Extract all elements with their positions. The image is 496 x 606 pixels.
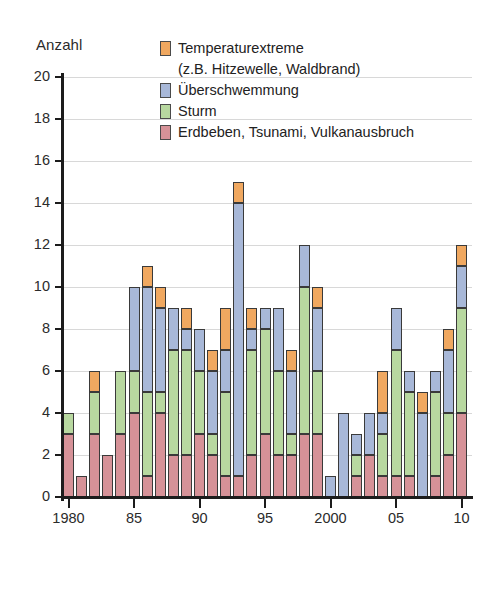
y-tick-18	[55, 118, 64, 120]
bar-segment	[273, 371, 284, 455]
bar-segment	[377, 434, 388, 476]
bar-1989	[181, 308, 192, 497]
x-tick-label-2005: 05	[388, 510, 404, 526]
bar-segment	[273, 455, 284, 497]
bar-segment	[220, 308, 231, 350]
bar-segment	[377, 413, 388, 434]
x-tick-label-1990: 90	[191, 510, 207, 526]
bar-segment	[129, 413, 140, 497]
x-tick-1985	[133, 499, 135, 508]
bar-segment	[299, 287, 310, 434]
bar-2000	[325, 476, 336, 497]
x-tick-1995	[264, 499, 266, 508]
bar-segment	[417, 392, 428, 413]
bar-1997	[286, 350, 297, 497]
bar-segment	[155, 413, 166, 497]
bar-segment	[430, 476, 441, 497]
bar-segment	[404, 371, 415, 392]
bar-segment	[286, 350, 297, 371]
bar-1986	[142, 266, 153, 497]
bar-segment	[391, 476, 402, 497]
figure-caption: M 5 Große Naturkatastrophen	[0, 548, 496, 606]
bar-1983	[102, 455, 113, 497]
bar-1987	[155, 287, 166, 497]
bar-segment	[260, 308, 271, 329]
bar-segment	[155, 287, 166, 308]
bar-segment	[207, 434, 218, 455]
bar-segment	[246, 455, 257, 497]
legend-item-temperaturextreme: Temperaturextreme	[160, 38, 490, 59]
bar-segment	[417, 413, 428, 497]
chart-page: Anzahl Temperaturextreme (z.B. Hitzewell…	[0, 0, 496, 606]
y-tick-12	[55, 244, 64, 246]
bar-segment	[351, 434, 362, 455]
bar-segment	[207, 350, 218, 371]
y-tick-label-14: 14	[16, 194, 50, 210]
bar-segment	[246, 350, 257, 455]
x-axis-line	[61, 496, 473, 499]
x-tick-label-1995: 95	[257, 510, 273, 526]
bar-segment	[260, 329, 271, 434]
bar-1982	[89, 371, 100, 497]
bar-segment	[194, 329, 205, 371]
y-tick-0	[55, 496, 64, 498]
y-axis-title: Anzahl	[36, 36, 82, 53]
bar-2008	[430, 371, 441, 497]
bar-segment	[102, 455, 113, 497]
bar-segment	[233, 182, 244, 203]
legend-swatch-temperaturextreme	[160, 41, 171, 56]
bar-2001	[338, 413, 349, 497]
y-tick-label-16: 16	[16, 152, 50, 168]
bar-1988	[168, 308, 179, 497]
bar-segment	[430, 371, 441, 392]
bar-1996	[273, 308, 284, 497]
bar-segment	[89, 392, 100, 434]
gridline-20	[63, 77, 472, 78]
bar-segment	[89, 371, 100, 392]
bar-segment	[220, 392, 231, 476]
bar-segment	[325, 476, 336, 497]
bar-segment	[233, 203, 244, 476]
x-tick-label-1985: 85	[126, 510, 142, 526]
bar-segment	[312, 287, 323, 308]
bar-segment	[456, 413, 467, 497]
x-tick-label-2000: 2000	[314, 510, 346, 526]
y-tick-2	[55, 454, 64, 456]
bar-segment	[456, 308, 467, 413]
bar-1980	[63, 413, 74, 497]
bar-segment	[194, 434, 205, 497]
bar-segment	[273, 308, 284, 371]
bar-2005	[391, 308, 402, 497]
gridline-14	[63, 203, 472, 204]
bar-segment	[63, 413, 74, 434]
bar-segment	[142, 476, 153, 497]
bar-2010	[456, 245, 467, 497]
bar-segment	[76, 476, 87, 497]
bar-segment	[391, 350, 402, 476]
bar-1999	[312, 287, 323, 497]
x-tick-label-2010: 10	[453, 510, 469, 526]
bar-segment	[430, 392, 441, 476]
bar-segment	[155, 308, 166, 392]
legend-swatch-placeholder	[160, 62, 171, 77]
bar-segment	[246, 308, 257, 329]
bar-2007	[417, 392, 428, 497]
bar-segment	[181, 308, 192, 329]
bar-1998	[299, 245, 310, 497]
bar-segment	[233, 476, 244, 497]
bar-segment	[312, 371, 323, 434]
y-tick-8	[55, 328, 64, 330]
bar-segment	[456, 245, 467, 266]
bar-segment	[338, 413, 349, 497]
bar-segment	[207, 455, 218, 497]
y-tick-4	[55, 412, 64, 414]
bar-segment	[391, 308, 402, 350]
y-tick-label-8: 8	[16, 320, 50, 336]
bar-segment	[129, 371, 140, 413]
bar-segment	[443, 413, 454, 455]
bar-2006	[404, 371, 415, 497]
y-tick-label-20: 20	[16, 68, 50, 84]
bar-1985	[129, 287, 140, 497]
bar-segment	[168, 350, 179, 455]
bar-2004	[377, 371, 388, 497]
